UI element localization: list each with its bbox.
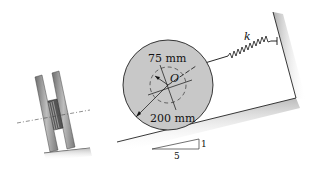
diagram: k 75 mm O 200 mm 1 5 <box>0 0 314 170</box>
slope-rise-label: 1 <box>201 139 207 149</box>
slope-run-label: 5 <box>174 151 180 161</box>
side-view <box>17 71 92 160</box>
outer-radius-label: 200 mm <box>150 112 196 125</box>
spring: k <box>195 30 277 66</box>
slope-indicator: 1 5 <box>152 139 207 161</box>
wall-shadow <box>273 12 306 100</box>
disk: 75 mm O 200 mm <box>123 40 213 130</box>
center-label: O <box>170 72 179 85</box>
spring-constant-label: k <box>244 30 251 43</box>
inner-radius-label: 75 mm <box>148 52 187 65</box>
